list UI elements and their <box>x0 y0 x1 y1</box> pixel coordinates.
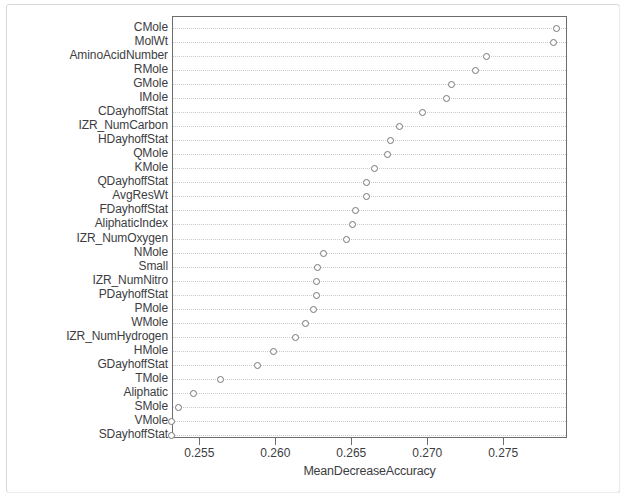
data-point <box>443 95 450 102</box>
data-points <box>173 17 566 437</box>
y-axis-label: CMole <box>0 21 168 33</box>
data-point <box>472 67 479 74</box>
y-axis-label: MolWt <box>0 35 168 47</box>
y-axis-label: AminoAcidNumber <box>0 49 168 61</box>
y-axis-label: IZR_NumCarbon <box>0 119 168 131</box>
y-axis-label: HMole <box>0 344 168 356</box>
x-axis-tick-label: 0.270 <box>412 447 442 460</box>
y-axis-label: IZR_NumNitro <box>0 274 168 286</box>
y-axis-label: Aliphatic <box>0 386 168 398</box>
x-axis-tick-label: 0.265 <box>336 447 366 460</box>
data-point <box>371 165 378 172</box>
x-axis-tick-label: 0.255 <box>184 447 214 460</box>
plot-area <box>172 16 567 438</box>
x-axis-tick <box>199 438 200 445</box>
y-axis-label: RMole <box>0 63 168 75</box>
y-axis-label: CDayhoffStat <box>0 105 168 117</box>
data-point <box>553 25 560 32</box>
data-point <box>313 292 320 299</box>
data-point <box>448 81 455 88</box>
data-point <box>292 334 299 341</box>
data-point <box>190 390 197 397</box>
y-axis-label: PMole <box>0 302 168 314</box>
y-axis-label: WMole <box>0 316 168 328</box>
data-point <box>396 123 403 130</box>
data-point <box>270 348 277 355</box>
data-point <box>343 236 350 243</box>
data-point <box>363 179 370 186</box>
y-axis-label: QDayhoffStat <box>0 175 168 187</box>
data-point <box>320 250 327 257</box>
data-point <box>168 418 175 425</box>
data-point <box>310 306 317 313</box>
y-axis-label: GMole <box>0 77 168 89</box>
x-axis-title: MeanDecreaseAccuracy <box>172 464 567 478</box>
y-axis-label: KMole <box>0 161 168 173</box>
y-axis-label: VMole <box>0 414 168 426</box>
data-point <box>483 53 490 60</box>
y-axis-label: SMole <box>0 400 168 412</box>
data-point <box>363 193 370 200</box>
data-point <box>352 207 359 214</box>
x-axis-tick-label: 0.275 <box>488 447 518 460</box>
y-axis-category-labels: CMoleMolWtAminoAcidNumberRMoleGMoleIMole… <box>0 0 168 498</box>
y-axis-label: SDayhoffStat <box>0 428 168 440</box>
y-axis-label: IMole <box>0 91 168 103</box>
y-axis-label: GDayhoffStat <box>0 358 168 370</box>
y-axis-label: PDayhoffStat <box>0 288 168 300</box>
data-point <box>313 278 320 285</box>
y-axis-label: QMole <box>0 147 168 159</box>
data-point <box>314 264 321 271</box>
x-axis-tick <box>351 438 352 445</box>
x-axis: MeanDecreaseAccuracy 0.2550.2600.2650.27… <box>172 438 567 498</box>
y-axis-label: AliphaticIndex <box>0 217 168 229</box>
x-axis-tick-label: 0.260 <box>260 447 290 460</box>
x-axis-tick <box>427 438 428 445</box>
y-axis-label: AvgResWt <box>0 189 168 201</box>
y-axis-label: IZR_NumOxygen <box>0 232 168 244</box>
y-axis-label: NMole <box>0 246 168 258</box>
x-axis-tick <box>503 438 504 445</box>
data-point <box>419 109 426 116</box>
y-axis-label: FDayhoffStat <box>0 203 168 215</box>
data-point <box>302 320 309 327</box>
y-axis-label: TMole <box>0 372 168 384</box>
data-point <box>175 404 182 411</box>
data-point <box>349 221 356 228</box>
variable-importance-dotplot-figure: CMoleMolWtAminoAcidNumberRMoleGMoleIMole… <box>0 0 626 498</box>
y-axis-label: HDayhoffStat <box>0 133 168 145</box>
data-point <box>387 137 394 144</box>
y-axis-label: Small <box>0 260 168 272</box>
data-point <box>550 39 557 46</box>
x-axis-tick <box>275 438 276 445</box>
y-axis-label: IZR_NumHydrogen <box>0 330 168 342</box>
data-point <box>384 151 391 158</box>
data-point <box>217 376 224 383</box>
data-point <box>254 362 261 369</box>
